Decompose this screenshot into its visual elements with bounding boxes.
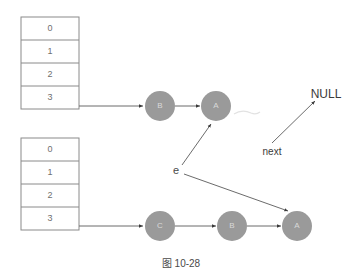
bottom-table-cell-2: 2 [47,190,52,200]
figure-caption: 图 10-28 [162,258,201,269]
bottom-node-c[interactable]: C [145,211,175,241]
top-table-cell-1: 1 [47,46,52,56]
erased-line-artifact [234,111,260,114]
null-label: NULL [311,87,342,101]
top-node-b[interactable]: B [145,91,175,121]
top-table-cell-0: 0 [47,23,52,33]
node-label: C [157,221,163,230]
top-table-cell-3: 3 [47,92,52,102]
linked-list-diagram: 0 1 2 3 0 1 2 3 NULL next e [0,0,362,279]
bottom-node-a[interactable]: A [282,211,312,241]
bottom-table-cell-0: 0 [47,144,52,154]
bottom-table-cell-1: 1 [47,167,52,177]
edge-next-to-null [272,101,315,143]
edge-e-to-top-node-a [182,124,211,165]
bottom-index-table: 0 1 2 3 [21,138,79,230]
node-label: A [294,221,300,230]
node-label: B [157,101,162,110]
diagram-canvas: 0 1 2 3 0 1 2 3 NULL next e [0,0,362,279]
bottom-table-cell-3: 3 [47,213,52,223]
node-label: A [213,101,219,110]
pointer-e-label: e [173,164,179,176]
bottom-node-b[interactable]: B [217,211,247,241]
node-label: B [229,221,234,230]
top-index-table: 0 1 2 3 [21,17,79,109]
top-node-a[interactable]: A [201,91,231,121]
edge-e-to-bottom-node-a [184,174,288,211]
next-label: next [263,146,282,157]
top-table-cell-2: 2 [47,69,52,79]
